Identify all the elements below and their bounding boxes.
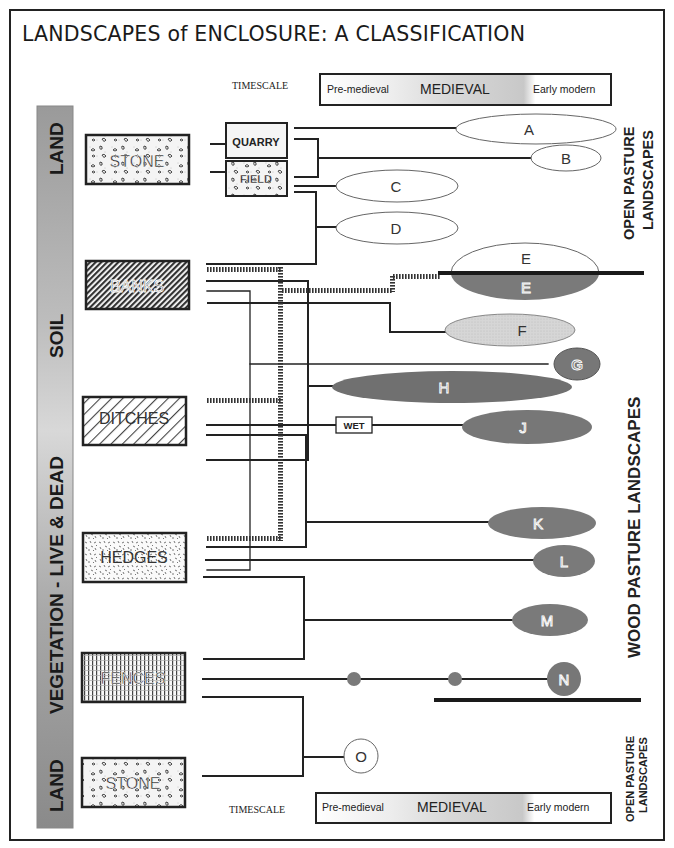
- svg-text:N: N: [559, 671, 570, 688]
- svg-text:J: J: [519, 419, 527, 436]
- timescale-label: TIMESCALE: [229, 804, 285, 815]
- svg-text:A: A: [524, 121, 534, 138]
- boundary-box-banks: BANKS: [86, 261, 189, 309]
- svg-text:BANKS: BANKS: [110, 278, 164, 295]
- sidebar-segment-land-bottom: LAND: [46, 759, 67, 812]
- landscape-e-wood-label: E: [521, 279, 531, 296]
- timescale-medieval: MEDIEVAL: [420, 81, 490, 97]
- svg-text:STONE: STONE: [110, 153, 165, 170]
- timescale-early-modern: Early modern: [533, 83, 596, 95]
- subtype-field: FIELD: [226, 161, 287, 196]
- svg-text:G: G: [571, 356, 583, 373]
- svg-text:OPEN PASTURE: OPEN PASTURE: [621, 126, 637, 240]
- svg-text:D: D: [391, 220, 402, 237]
- landscape-e: E E: [438, 243, 644, 300]
- svg-text:FENCES: FENCES: [101, 670, 166, 687]
- fence-post-dot: [347, 672, 361, 686]
- subtype-quarry: QUARRY: [226, 123, 287, 158]
- landscape-o: O: [344, 739, 378, 773]
- timescale-medieval: MEDIEVAL: [417, 799, 487, 815]
- timescale-bottom: TIMESCALE Pre-medieval MEDIEVAL Early mo…: [229, 793, 611, 823]
- landscape-e-open-label: E: [521, 250, 531, 267]
- svg-text:L: L: [560, 553, 568, 570]
- boundary-box-stone-bottom: STONE: [82, 758, 185, 807]
- fence-post-dot: [448, 672, 462, 686]
- svg-text:STONE: STONE: [106, 775, 161, 792]
- material-sidebar: LAND SOIL VEGETATION - LIVE & DEAD LAND: [37, 106, 73, 828]
- classification-diagram: TIMESCALE Pre-medieval MEDIEVAL Early mo…: [0, 0, 674, 848]
- landscape-m: M: [512, 604, 588, 636]
- timescale-label: TIMESCALE: [232, 80, 288, 91]
- svg-text:O: O: [355, 748, 367, 765]
- svg-text:HEDGES: HEDGES: [100, 549, 168, 566]
- svg-text:C: C: [391, 178, 402, 195]
- svg-text:QUARRY: QUARRY: [232, 136, 280, 148]
- svg-text:WET: WET: [343, 420, 364, 431]
- svg-text:H: H: [439, 379, 450, 396]
- zone-wood-pasture: WOOD PASTURE LANDSCAPES: [625, 397, 644, 658]
- boundary-box-hedges: HEDGES: [83, 533, 186, 582]
- svg-text:K: K: [533, 515, 543, 532]
- boundary-box-fences: FENCES: [82, 653, 185, 702]
- landscape-f: F: [445, 314, 575, 346]
- timescale-early-modern: Early modern: [527, 801, 590, 813]
- subtype-wet: WET: [336, 417, 372, 433]
- svg-text:F: F: [517, 322, 526, 339]
- svg-text:WOOD PASTURE LANDSCAPES: WOOD PASTURE LANDSCAPES: [625, 397, 644, 658]
- landscape-k: K: [488, 507, 596, 539]
- timescale-pre-medieval: Pre-medieval: [327, 83, 389, 95]
- landscape-g: G: [554, 348, 600, 380]
- landscape-d: D: [336, 212, 458, 244]
- timescale-pre-medieval: Pre-medieval: [322, 801, 384, 813]
- svg-text:M: M: [541, 612, 554, 629]
- hatched-connector-lines: [207, 267, 441, 541]
- svg-text:FIELD: FIELD: [240, 173, 272, 185]
- svg-text:LANDSCAPES: LANDSCAPES: [637, 737, 649, 813]
- sidebar-segment-soil: SOIL: [46, 313, 67, 358]
- landscape-a: A: [456, 114, 616, 144]
- sidebar-segment-land-top: LAND: [46, 122, 67, 175]
- landscape-n: N: [547, 662, 581, 696]
- landscape-l: L: [533, 545, 595, 577]
- landscape-b: B: [531, 145, 601, 171]
- landscape-c: C: [336, 170, 458, 202]
- svg-text:DITCHES: DITCHES: [99, 410, 169, 427]
- svg-text:B: B: [561, 150, 571, 167]
- svg-text:LANDSCAPES: LANDSCAPES: [640, 130, 656, 230]
- zone-open-pasture-top: OPEN PASTURE LANDSCAPES: [621, 126, 656, 240]
- svg-text:OPEN PASTURE: OPEN PASTURE: [624, 736, 636, 822]
- timescale-top: TIMESCALE Pre-medieval MEDIEVAL Early mo…: [232, 74, 611, 105]
- boundary-box-ditches: DITCHES: [83, 397, 186, 445]
- landscape-j: J: [462, 410, 592, 444]
- landscape-h: H: [332, 371, 572, 403]
- zone-open-pasture-bottom: OPEN PASTURE LANDSCAPES: [624, 736, 649, 822]
- sidebar-segment-vegetation: VEGETATION - LIVE & DEAD: [46, 456, 67, 714]
- boundary-box-stone-top: STONE: [86, 135, 189, 184]
